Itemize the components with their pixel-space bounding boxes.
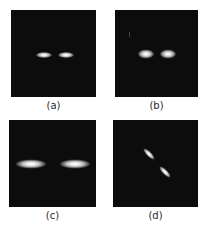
caption-d: (d) <box>113 210 198 222</box>
spot-c-1 <box>16 160 46 169</box>
caption-c: (c) <box>9 210 96 222</box>
caption-a: (a) <box>11 100 96 112</box>
panel-a-image <box>11 10 96 97</box>
spot-c-2 <box>60 160 90 169</box>
spot-a-2 <box>58 52 74 58</box>
spot-b-2 <box>160 50 176 59</box>
spot-a-1 <box>36 52 52 58</box>
panel-c-image <box>9 120 96 207</box>
caption-b: (b) <box>115 100 198 112</box>
noise-artifact <box>129 32 130 37</box>
spot-d-1 <box>142 147 156 161</box>
spot-d-2 <box>158 165 172 179</box>
spot-b-1 <box>138 50 154 59</box>
panel-d-image <box>113 120 198 207</box>
panel-b-image <box>115 10 198 97</box>
